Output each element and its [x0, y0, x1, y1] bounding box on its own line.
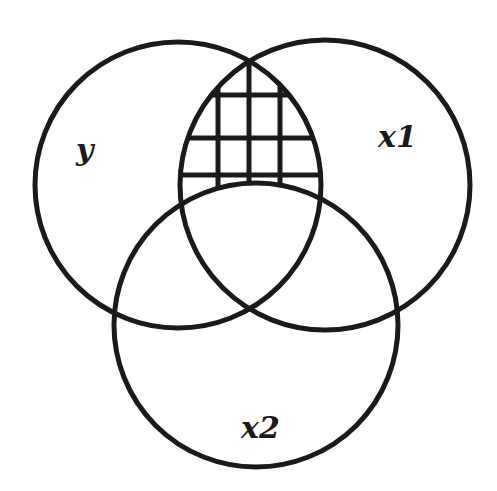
set-label-x1: x1 — [377, 119, 417, 154]
set-label-x2: x2 — [240, 410, 280, 445]
venn-canvas: y x1 x2 — [0, 0, 497, 491]
venn-diagram: y x1 x2 — [0, 0, 497, 491]
set-label-y: y — [75, 132, 96, 167]
